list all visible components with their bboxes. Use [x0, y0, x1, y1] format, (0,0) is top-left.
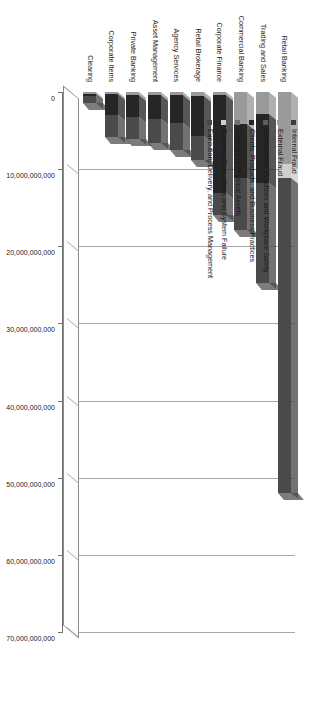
bar-segment[interactable] [105, 115, 118, 137]
value-axis [62, 92, 63, 632]
bar-segment[interactable] [170, 95, 183, 123]
axis-tick [58, 478, 63, 479]
axis-tick [58, 169, 63, 170]
bar-segment[interactable] [127, 95, 140, 117]
chart-figure: 010,000,000,00020,000,000,00030,000,000,… [0, 0, 317, 704]
legend-label: Internal Fraud [289, 129, 299, 174]
category-label: Retail Brokerage [194, 0, 203, 82]
axis-tick-label: 20,000,000,000 [6, 249, 55, 256]
category-label: Private Banking [129, 0, 138, 82]
bar-segment[interactable] [148, 95, 161, 119]
category-label: Corporate Finance [215, 0, 224, 82]
axis-tick-label: 0 [51, 95, 55, 102]
bar-segment[interactable] [83, 96, 96, 103]
axis-tick-label: 10,000,000,000 [6, 172, 55, 179]
legend-swatch-icon [277, 120, 282, 125]
legend-swatch-icon [207, 120, 212, 125]
legend-item[interactable]: External Fraud [274, 120, 285, 278]
bar-stack[interactable] [83, 92, 96, 632]
axis-tick-label: 60,000,000,000 [6, 558, 55, 565]
bar-segment[interactable] [148, 119, 161, 143]
bar-segment[interactable] [170, 123, 183, 150]
legend-label: Employment Practices and Workplace Safet… [261, 129, 271, 273]
legend-label: Business Disruptions and System Failure [219, 129, 229, 260]
bar-segment[interactable] [256, 92, 269, 114]
category-label: Trading and Sales [259, 0, 268, 82]
plot-area: 010,000,000,00020,000,000,00030,000,000,… [0, 0, 317, 704]
bar-stack[interactable] [105, 92, 118, 632]
axis-tick-label: 30,000,000,000 [6, 326, 55, 333]
bar-segment[interactable] [127, 117, 140, 139]
category-label: Clearing [86, 0, 95, 82]
legend-item[interactable]: Employment Practices and Workplace Safet… [260, 120, 271, 278]
legend-swatch-icon [249, 120, 254, 125]
legend-item[interactable]: Execution, Delivery, and Process Managem… [204, 120, 215, 278]
category-label: Corporate Items [107, 0, 116, 82]
axis-tick-label: 70,000,000,000 [6, 635, 55, 642]
legend-label: Damage to Physical Assets [233, 129, 243, 216]
legend-swatch-icon [221, 120, 226, 125]
bar-segment[interactable] [105, 94, 118, 115]
axis-tick [58, 401, 63, 402]
legend-swatch-icon [235, 120, 240, 125]
axis-tick [58, 323, 63, 324]
legend-item[interactable]: Clients, Products, and Business Practice… [246, 120, 257, 278]
category-label: Agency Services [172, 0, 181, 82]
axis-tick [58, 632, 63, 633]
legend-label: Execution, Delivery, and Process Managem… [205, 129, 215, 278]
bar-end-face [278, 493, 304, 500]
legend-item[interactable]: Damage to Physical Assets [232, 120, 243, 278]
gridline [79, 632, 295, 633]
legend-label: External Fraud [275, 129, 285, 176]
axis-tick [58, 555, 63, 556]
axis-tick [58, 92, 63, 93]
axis-tick-label: 40,000,000,000 [6, 404, 55, 411]
bar-stack[interactable] [170, 92, 183, 632]
axis-tick [58, 246, 63, 247]
category-label: Asset Management [151, 0, 160, 82]
axis-tick-label: 50,000,000,000 [6, 481, 55, 488]
legend-item[interactable]: Business Disruptions and System Failure [218, 120, 229, 278]
category-label: Commercial Banking [237, 0, 246, 82]
legend-item[interactable]: Internal Fraud [288, 120, 299, 278]
bar-stack[interactable] [148, 92, 161, 632]
category-label: Retail Banking [280, 0, 289, 82]
legend-label: Clients, Products, and Business Practice… [247, 129, 257, 262]
bar-stack[interactable] [127, 92, 140, 632]
legend-swatch-icon [291, 120, 296, 125]
legend-swatch-icon [263, 120, 268, 125]
legend: Internal FraudExternal FraudEmployment P… [201, 120, 299, 278]
